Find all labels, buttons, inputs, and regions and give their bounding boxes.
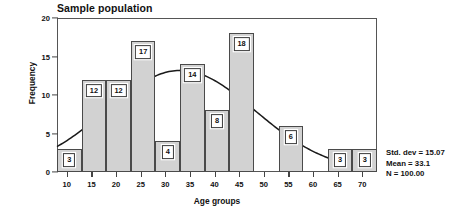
bar-value-label: 17	[135, 45, 151, 59]
x-tick-mark	[338, 172, 339, 177]
x-tick-label: 55	[276, 180, 300, 189]
x-tick-mark	[141, 172, 142, 177]
bar-value-label: 8	[211, 114, 223, 128]
x-tick-mark	[313, 172, 314, 177]
x-tick-mark	[190, 172, 191, 177]
x-tick-mark	[91, 172, 92, 177]
bar-value-label: 12	[86, 84, 102, 98]
y-tick-label: 5	[30, 129, 50, 138]
bar-value-label: 3	[334, 153, 346, 167]
x-tick-label: 10	[55, 180, 79, 189]
x-tick-mark	[67, 172, 68, 177]
x-tick-mark	[288, 172, 289, 177]
x-tick-mark	[165, 172, 166, 177]
x-tick-label: 25	[129, 180, 153, 189]
bar-value-label: 3	[63, 153, 75, 167]
x-tick-mark	[264, 172, 265, 177]
bar-value-label: 6	[285, 130, 297, 144]
x-tick-label: 35	[178, 180, 202, 189]
bar-value-label: 3	[359, 153, 371, 167]
bar	[131, 41, 156, 172]
y-tick-label: 10	[30, 91, 50, 100]
x-tick-label: 60	[301, 180, 325, 189]
chart-title: Sample population	[57, 2, 153, 14]
x-axis-label: Age groups	[0, 196, 434, 206]
statistics-block: Std. dev = 15.07 Mean = 33.1 N = 100.00	[386, 148, 445, 180]
bar-value-label: 18	[233, 37, 249, 51]
x-tick-label: 15	[79, 180, 103, 189]
y-tick-label: 15	[30, 52, 50, 61]
x-tick-label: 30	[153, 180, 177, 189]
chart-figure: Sample population Frequency 05101520 101…	[0, 0, 470, 219]
bar-value-label: 12	[110, 84, 126, 98]
bar-value-label: 14	[184, 68, 200, 82]
y-tick-label: 0	[30, 168, 50, 177]
x-tick-label: 40	[203, 180, 227, 189]
x-tick-label: 20	[104, 180, 128, 189]
x-tick-label: 65	[326, 180, 350, 189]
stat-mean: Mean = 33.1	[386, 159, 445, 170]
stat-n: N = 100.00	[386, 169, 445, 180]
x-tick-mark	[215, 172, 216, 177]
stat-std-dev: Std. dev = 15.07	[386, 148, 445, 159]
x-tick-mark	[116, 172, 117, 177]
x-tick-label: 50	[252, 180, 276, 189]
bar	[229, 33, 254, 172]
x-tick-mark	[239, 172, 240, 177]
x-tick-label: 70	[350, 180, 374, 189]
x-tick-label: 45	[227, 180, 251, 189]
x-tick-mark	[362, 172, 363, 177]
bar-value-label: 4	[162, 145, 174, 159]
y-tick-label: 20	[30, 14, 50, 23]
